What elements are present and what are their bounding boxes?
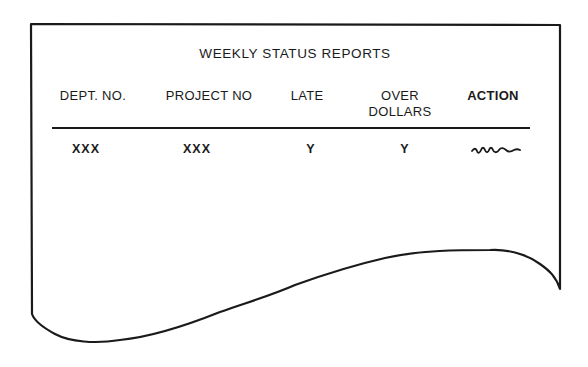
header-divider (52, 127, 530, 129)
column-header-late: LATE (291, 89, 324, 102)
cell-over-dollars: Y (400, 143, 409, 156)
column-header-over-dollars-line2: DOLLARS (369, 105, 432, 118)
cell-late: Y (306, 143, 315, 156)
column-header-dept-no: DEPT. NO. (60, 89, 126, 102)
column-header-over-dollars-line1: OVER (381, 89, 419, 102)
report-title: WEEKLY STATUS REPORTS (199, 47, 390, 61)
cell-dept-no: XXX (72, 143, 100, 156)
column-header-action: ACTION (467, 89, 519, 102)
column-header-project-no: PROJECT NO (166, 89, 253, 102)
paper-edge (31, 24, 560, 342)
handwritten-squiggle-icon (470, 142, 522, 158)
cell-project-no: XXX (183, 143, 211, 156)
